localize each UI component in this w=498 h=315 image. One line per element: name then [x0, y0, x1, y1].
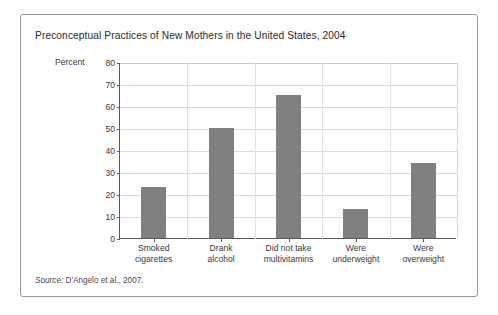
page-title: Preconceptual Practices of New Mothers i…	[35, 30, 346, 41]
source-text: D'Angelo et al., 2007.	[63, 276, 143, 285]
x-tick-label-line: Smoked	[120, 243, 187, 254]
x-tick-mark	[356, 239, 357, 242]
x-tick-label: Drankalcohol	[187, 243, 254, 264]
bar	[276, 95, 301, 238]
y-tick-mark	[117, 151, 120, 152]
y-tick-label: 50	[105, 124, 115, 134]
y-tick-label: 80	[105, 58, 115, 68]
category-separator	[187, 63, 188, 239]
x-tick-label: Did not takemultivitamins	[255, 243, 322, 264]
gridline	[120, 63, 457, 64]
category-separator	[322, 63, 323, 239]
x-tick-label-line: Did not take	[255, 243, 322, 254]
plot-wrapper: 01020304050607080 SmokedcigarettesDranka…	[119, 63, 456, 239]
category-separator	[457, 63, 458, 239]
x-tick-mark	[221, 239, 222, 242]
category-separator	[390, 63, 391, 239]
bar	[141, 187, 166, 238]
bar	[411, 163, 436, 238]
x-tick-label-line: Drank	[187, 243, 254, 254]
x-tick-label: Smokedcigarettes	[120, 243, 187, 264]
y-tick-mark	[117, 63, 120, 64]
y-tick-label: 0	[110, 234, 115, 244]
figure-frame: Preconceptual Practices of New Mothers i…	[20, 14, 478, 297]
plot-area: 01020304050607080 SmokedcigarettesDranka…	[119, 63, 456, 239]
y-axis-label: Percent	[55, 57, 85, 67]
x-tick-label-line: Were	[322, 243, 389, 254]
x-tick-mark	[289, 239, 290, 242]
source-label: Source:	[35, 276, 63, 285]
x-tick-label-line: cigarettes	[120, 254, 187, 265]
y-tick-mark	[117, 107, 120, 108]
y-tick-label: 10	[105, 212, 115, 222]
y-tick-mark	[117, 85, 120, 86]
y-tick-label: 40	[105, 146, 115, 156]
bar	[343, 209, 368, 238]
y-tick-mark	[117, 239, 120, 240]
y-tick-mark	[117, 129, 120, 130]
bar	[209, 128, 234, 238]
x-tick-mark	[423, 239, 424, 242]
x-tick-label-line: alcohol	[187, 254, 254, 265]
category-separator	[255, 63, 256, 239]
x-tick-label: Wereunderweight	[322, 243, 389, 264]
source-note: Source: D'Angelo et al., 2007.	[35, 276, 144, 285]
y-tick-label: 70	[105, 80, 115, 90]
x-tick-label: Wereoverweight	[390, 243, 457, 264]
gridline	[120, 85, 457, 86]
y-tick-label: 20	[105, 190, 115, 200]
x-tick-label-line: multivitamins	[255, 254, 322, 265]
y-tick-mark	[117, 195, 120, 196]
y-tick-label: 30	[105, 168, 115, 178]
y-tick-mark	[117, 173, 120, 174]
x-tick-label-line: Were	[390, 243, 457, 254]
x-tick-mark	[154, 239, 155, 242]
x-tick-label-line: underweight	[322, 254, 389, 265]
x-tick-label-line: overweight	[390, 254, 457, 265]
y-tick-label: 60	[105, 102, 115, 112]
y-tick-mark	[117, 217, 120, 218]
